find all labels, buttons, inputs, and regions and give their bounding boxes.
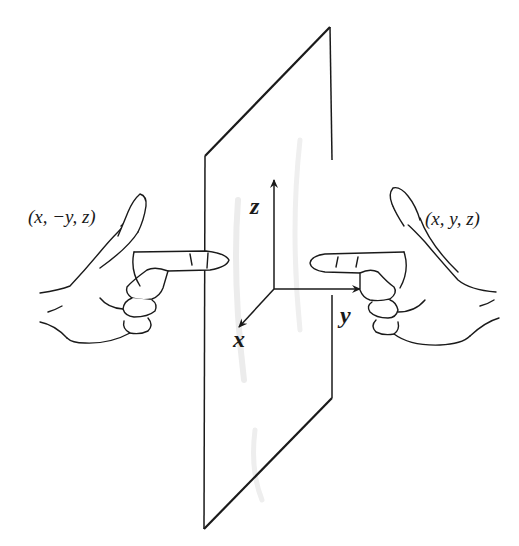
z-axis-label: z bbox=[250, 193, 259, 220]
original-point-label: (x, y, z) bbox=[425, 208, 480, 230]
diagram-graphic bbox=[0, 0, 519, 546]
reflected-point-label: (x, −y, z) bbox=[28, 206, 96, 228]
mirror-reflection-diagram: (x, −y, z) (x, y, z) z y x bbox=[0, 0, 519, 546]
x-axis-label: x bbox=[233, 326, 245, 353]
mirror-plane bbox=[204, 27, 332, 529]
y-axis-label: y bbox=[340, 302, 351, 329]
